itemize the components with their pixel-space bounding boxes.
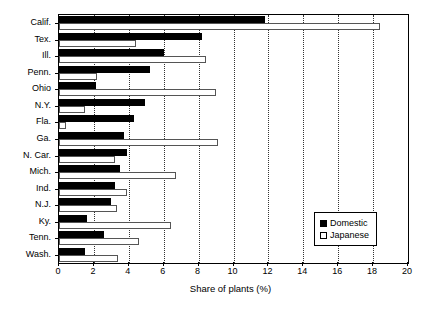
bar-group — [59, 132, 408, 146]
bar-group — [59, 149, 408, 163]
bar-japanese — [59, 255, 118, 262]
bar-domestic — [59, 182, 115, 189]
bar-japanese — [59, 222, 171, 229]
x-axis-tick-label: 0 — [55, 266, 60, 277]
bar-domestic — [59, 82, 96, 89]
bar-group — [59, 33, 408, 47]
bar-group — [59, 165, 408, 179]
bar-group — [59, 115, 408, 129]
bar-japanese — [59, 172, 176, 179]
bar-japanese — [59, 56, 206, 63]
y-axis-label-tex: Tex. — [0, 34, 51, 44]
bar-japanese — [59, 189, 127, 196]
y-axis-label-penn: Penn. — [0, 67, 51, 77]
y-axis-label-calif: Calif. — [0, 17, 51, 27]
bar-japanese — [59, 106, 85, 113]
y-axis-label-ill: Ill. — [0, 50, 51, 60]
bar-group — [59, 82, 408, 96]
bar-japanese — [59, 23, 380, 30]
y-axis-label-wash: Wash. — [0, 249, 51, 259]
bar-group — [59, 99, 408, 113]
x-axis-tick-label: 20 — [402, 266, 412, 277]
y-axis-tick — [55, 23, 59, 24]
x-axis-tick-label: 10 — [227, 266, 237, 277]
y-axis-label-ncar: N. Car. — [0, 150, 51, 160]
y-axis-label-ny: N.Y. — [0, 100, 51, 110]
y-axis-tick — [55, 255, 59, 256]
bar-domestic — [59, 49, 164, 56]
bar-domestic — [59, 132, 124, 139]
bar-japanese — [59, 89, 216, 96]
bar-group — [59, 198, 408, 212]
bar-japanese — [59, 139, 218, 146]
legend-entry-domestic: Domestic — [320, 217, 369, 229]
y-axis-tick — [55, 73, 59, 74]
bar-group — [59, 182, 408, 196]
bar-domestic — [59, 248, 85, 255]
bar-domestic — [59, 149, 127, 156]
bar-group — [59, 49, 408, 63]
bar-domestic — [59, 115, 134, 122]
y-axis-tick — [55, 106, 59, 107]
bar-domestic — [59, 16, 265, 23]
bar-domestic — [59, 198, 111, 205]
y-axis-tick — [55, 139, 59, 140]
bar-chart-figure: Calif.Tex.Ill.Penn.OhioN.Y.Fla.Ga.N. Car… — [0, 0, 427, 312]
bar-japanese — [59, 73, 97, 80]
y-axis-label-ohio: Ohio — [0, 83, 51, 93]
x-axis-tick-labels: 02468101214161820 — [58, 266, 408, 280]
y-axis-tick — [55, 56, 59, 57]
y-axis-tick — [55, 222, 59, 223]
legend-label-japanese: Japanese — [330, 229, 369, 241]
y-axis-tick — [55, 205, 59, 206]
bar-domestic — [59, 66, 150, 73]
x-axis-tick-label: 4 — [125, 266, 130, 277]
bar-group — [59, 66, 408, 80]
bar-domestic — [59, 215, 87, 222]
bar-japanese — [59, 205, 117, 212]
y-axis-tick — [55, 156, 59, 157]
x-axis-tick-label: 12 — [262, 266, 272, 277]
y-axis-tick — [55, 238, 59, 239]
bar-japanese — [59, 122, 66, 129]
bar-domestic — [59, 99, 145, 106]
chart-legend: Domestic Japanese — [314, 212, 377, 246]
x-axis-tick-label: 8 — [195, 266, 200, 277]
bar-domestic — [59, 165, 120, 172]
y-axis-label-mich: Mich. — [0, 166, 51, 176]
bar-japanese — [59, 238, 139, 245]
x-axis-title-text: Share of plants (%) — [190, 283, 271, 295]
y-axis-tick — [55, 172, 59, 173]
y-axis-label-ind: Ind. — [0, 183, 51, 193]
bar-domestic — [59, 231, 104, 238]
x-axis-tick-label: 16 — [332, 266, 342, 277]
x-axis-tick-label: 6 — [160, 266, 165, 277]
y-axis-label-fla: Fla. — [0, 116, 51, 126]
x-axis-tick-label: 2 — [90, 266, 95, 277]
legend-swatch-domestic-square-icon — [320, 220, 327, 227]
y-axis-tick — [55, 122, 59, 123]
legend-swatch-japanese-square-icon — [320, 232, 327, 239]
legend-label-domestic: Domestic — [330, 217, 368, 229]
y-axis-label-ky: Ky. — [0, 216, 51, 226]
bar-group — [59, 248, 408, 262]
bar-group — [59, 16, 408, 30]
y-axis-category-labels: Calif.Tex.Ill.Penn.OhioN.Y.Fla.Ga.N. Car… — [0, 14, 54, 262]
x-axis-tick-label: 14 — [297, 266, 307, 277]
y-axis-tick — [55, 189, 59, 190]
x-axis-title: Share of plants (%) — [0, 283, 427, 295]
legend-entry-japanese: Japanese — [320, 229, 369, 241]
bar-domestic — [59, 33, 202, 40]
y-axis-label-nj: N.J. — [0, 199, 51, 209]
bar-japanese — [59, 156, 115, 163]
y-axis-tick — [55, 89, 59, 90]
y-axis-tick — [55, 40, 59, 41]
y-axis-label-tenn: Tenn. — [0, 232, 51, 242]
x-axis-tick-label: 18 — [367, 266, 377, 277]
y-axis-label-ga: Ga. — [0, 133, 51, 143]
bar-japanese — [59, 40, 136, 47]
